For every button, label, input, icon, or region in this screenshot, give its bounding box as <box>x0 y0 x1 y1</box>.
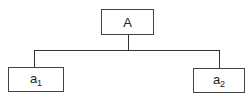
branch-connector-horizontal <box>34 50 220 51</box>
child-node-a2-label: a2 <box>213 72 225 89</box>
child-node-a1: a1 <box>8 67 64 92</box>
root-node-a: A <box>101 9 154 35</box>
child-node-a2: a2 <box>193 68 245 93</box>
child-1-connector-vertical <box>34 50 35 67</box>
child-node-a1-label: a1 <box>30 71 42 88</box>
root-connector-vertical <box>128 35 129 50</box>
child-2-connector-vertical <box>219 50 220 68</box>
root-node-label: A <box>123 15 132 30</box>
